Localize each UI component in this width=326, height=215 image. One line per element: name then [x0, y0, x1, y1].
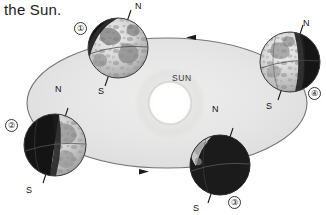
- sun-label: SUN: [172, 73, 192, 83]
- north-pole-label-4: N: [303, 18, 310, 28]
- diagram-canvas: [0, 0, 326, 215]
- position-number-4: ④: [308, 87, 321, 100]
- south-pole-label-1: S: [98, 86, 104, 96]
- sun-core: [150, 83, 190, 123]
- earth-orbit-diagram: the Sun. SUN N S ① N S ② N S ③ N S ④: [0, 0, 326, 215]
- position-number-3: ③: [228, 196, 241, 209]
- south-pole-label-2: S: [26, 185, 32, 195]
- sun: [134, 67, 206, 139]
- position-number-2: ②: [5, 119, 18, 132]
- caption-fragment: the Sun.: [4, 1, 61, 18]
- south-pole-label-4: S: [266, 101, 272, 111]
- north-pole-label-1: N: [135, 1, 142, 11]
- south-pole-label-3: S: [193, 203, 199, 213]
- orbit-arrow-bottom: [139, 169, 149, 174]
- earth-surface-4: [260, 32, 322, 92]
- north-pole-label-2: N: [55, 84, 62, 94]
- north-pole-label-3: N: [212, 104, 219, 114]
- position-number-1: ①: [74, 22, 87, 35]
